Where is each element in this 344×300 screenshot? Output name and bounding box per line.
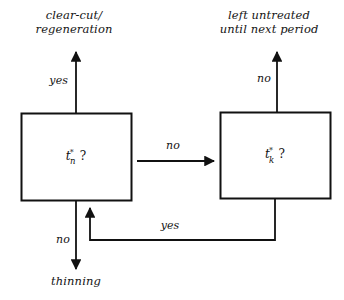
- node-tn-suffix: ?: [80, 149, 87, 163]
- flow-diagram: clear-cut/ regeneration left untreated u…: [0, 0, 344, 300]
- terminal-label-untreated: left untreated until next period: [204, 8, 334, 36]
- edge-label-tn-to-clearcut: yes: [40, 74, 68, 87]
- edge-label-tk-to-untreated: no: [247, 72, 271, 85]
- terminal-label-thinning: thinning: [36, 274, 116, 288]
- node-label-tk: t*k?: [220, 112, 330, 198]
- edge-label-tn-to-thinning: no: [44, 233, 70, 246]
- edge-label-tk-to-tn: yes: [150, 219, 190, 232]
- node-tk-suffix: ?: [278, 147, 285, 161]
- node-tn-subscript: n: [70, 156, 76, 166]
- node-label-tn: t*n?: [21, 113, 131, 200]
- terminal-label-clearcut: clear-cut/ regeneration: [14, 8, 134, 36]
- edge-label-tn-to-tk: no: [158, 139, 188, 152]
- node-tk-superscript: *: [269, 146, 273, 155]
- node-tk-subscript: k: [269, 155, 274, 165]
